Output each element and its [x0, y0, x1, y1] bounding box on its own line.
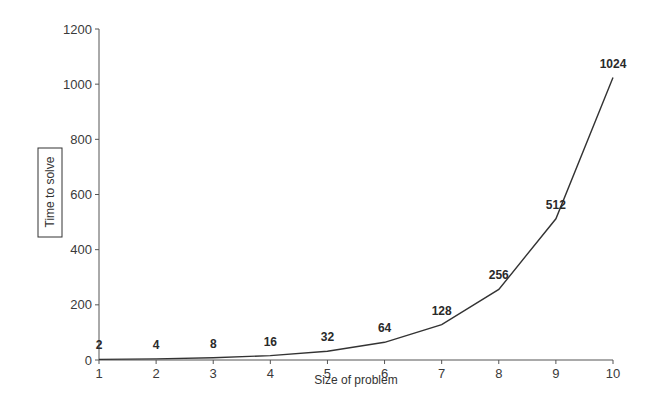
data-label: 128: [432, 304, 452, 318]
data-labels: 2481632641282565121024: [96, 57, 627, 353]
x-tick-label: 7: [438, 366, 445, 381]
x-axis-title: Size of problem: [314, 373, 397, 387]
y-axis-title-box: Time to solve: [38, 148, 62, 237]
x-tick-label: 4: [267, 366, 274, 381]
y-tick-label: 1000: [63, 77, 92, 92]
x-tick-label: 8: [495, 366, 502, 381]
x-tick-label: 2: [152, 366, 159, 381]
data-label: 512: [546, 198, 566, 212]
data-label: 32: [321, 330, 335, 344]
x-tick-label: 10: [606, 366, 620, 381]
data-label: 4: [153, 338, 160, 352]
x-tick-label: 1: [95, 366, 102, 381]
series-line: [99, 78, 613, 360]
y-tick-label: 200: [70, 297, 92, 312]
y-axis-ticks: 020040060080010001200: [63, 22, 99, 368]
y-tick-label: 1200: [63, 22, 92, 37]
y-axis-title: Time to solve: [43, 156, 57, 227]
data-label: 64: [378, 321, 392, 335]
y-tick-label: 800: [70, 132, 92, 147]
line-chart: 020040060080010001200 12345678910 248163…: [0, 0, 657, 420]
x-tick-label: 9: [552, 366, 559, 381]
y-tick-label: 0: [85, 353, 92, 368]
x-tick-label: 3: [210, 366, 217, 381]
data-label: 16: [264, 335, 278, 349]
data-label: 1024: [600, 57, 627, 71]
y-tick-label: 400: [70, 242, 92, 257]
y-tick-label: 600: [70, 187, 92, 202]
data-label: 256: [489, 268, 509, 282]
data-label: 8: [210, 337, 217, 351]
data-label: 2: [96, 338, 103, 352]
